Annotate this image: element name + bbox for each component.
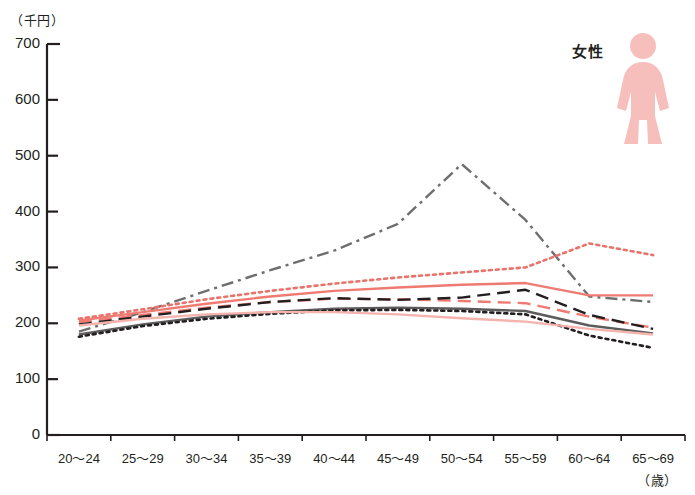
x-tick-label: 50～54	[430, 448, 494, 467]
y-tick-label: 100	[0, 369, 40, 386]
x-axis-unit-label: （歳）	[637, 470, 678, 489]
y-tick-label: 0	[0, 425, 40, 442]
gender-annotation: 女性	[572, 32, 682, 147]
x-tick-label: 60～64	[557, 448, 621, 467]
y-tick-label: 400	[0, 202, 40, 219]
y-axis-unit-label: （千円）	[10, 10, 64, 29]
x-tick-label: 20～24	[47, 448, 111, 467]
chart-container: （千円） （歳） 0100200300400500600700 20～2425～…	[0, 0, 695, 495]
y-tick-label: 600	[0, 90, 40, 107]
y-tick-label: 300	[0, 257, 40, 274]
x-tick-label: 35～39	[238, 448, 302, 467]
x-tick-label: 30～34	[175, 448, 239, 467]
x-tick-label: 65～69	[621, 448, 685, 467]
x-tick-label: 55～59	[494, 448, 558, 467]
series-lines	[79, 164, 653, 348]
y-tick-label: 500	[0, 146, 40, 163]
y-tick-label: 200	[0, 313, 40, 330]
y-tick-label: 700	[0, 34, 40, 51]
x-tick-label: 45～49	[366, 448, 430, 467]
gender-label: 女性	[572, 40, 604, 61]
x-tick-label: 25～29	[111, 448, 175, 467]
series-line-black-dotted	[79, 310, 653, 348]
female-figure-icon	[612, 32, 674, 144]
x-tick-label: 40～44	[302, 448, 366, 467]
